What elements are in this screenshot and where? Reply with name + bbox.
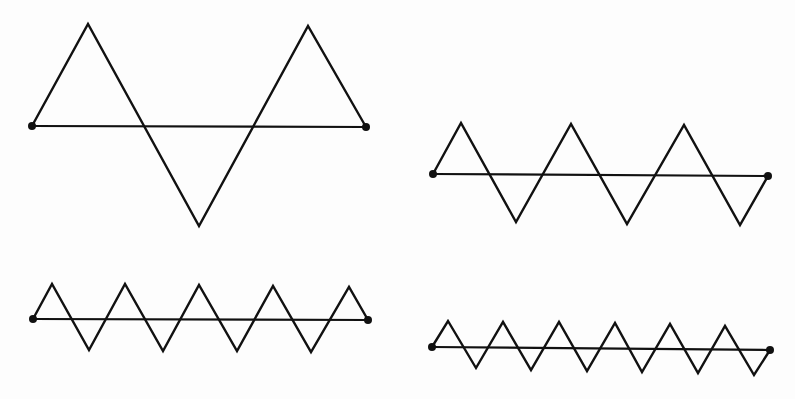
zigzag-diagram-1 xyxy=(28,24,370,226)
baseline xyxy=(33,319,368,320)
start-endpoint-dot xyxy=(428,343,436,351)
zigzag-figure xyxy=(0,0,795,399)
zigzag-line xyxy=(33,284,368,352)
end-endpoint-dot xyxy=(764,172,772,180)
zigzag-diagram-4 xyxy=(428,321,774,375)
baseline xyxy=(32,126,366,127)
start-endpoint-dot xyxy=(29,315,37,323)
end-endpoint-dot xyxy=(766,346,774,354)
end-endpoint-dot xyxy=(362,123,370,131)
zigzag-line xyxy=(32,24,366,226)
start-endpoint-dot xyxy=(429,170,437,178)
start-endpoint-dot xyxy=(28,122,36,130)
diagram-canvas xyxy=(0,0,795,399)
end-endpoint-dot xyxy=(364,316,372,324)
zigzag-diagram-2 xyxy=(429,123,772,225)
zigzag-diagram-3 xyxy=(29,284,372,352)
